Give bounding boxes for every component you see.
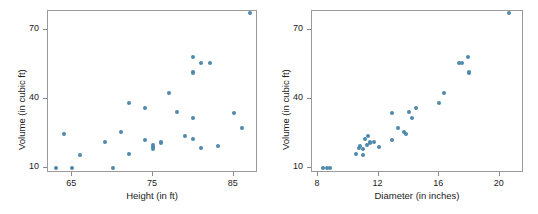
data-point (199, 61, 203, 65)
data-point (54, 166, 58, 170)
data-point (78, 153, 82, 157)
data-point (396, 126, 400, 130)
x-axis-title-right: Diameter (in inches) (311, 190, 523, 201)
data-point (361, 147, 365, 151)
data-point (363, 137, 367, 141)
scatterplot-figure: Volume (in cubic ft) 104070 657585 Heigh… (0, 0, 538, 214)
data-point (377, 145, 381, 149)
chart-panel-diameter: Volume (in cubic ft) 104070 8121620 Diam… (269, 0, 538, 214)
x-tick-label: 85 (220, 179, 246, 188)
data-point (407, 110, 411, 114)
y-tick-mark (43, 98, 47, 99)
data-point (143, 138, 147, 142)
y-tick-label: 40 (277, 93, 303, 102)
data-point (70, 166, 74, 170)
y-tick-mark (43, 29, 47, 30)
y-axis-title-right: Volume (in cubic ft) (280, 69, 291, 150)
data-point (460, 61, 464, 65)
y-tick-mark (307, 29, 311, 30)
data-point (216, 144, 220, 148)
data-point (232, 111, 236, 115)
data-point (183, 134, 187, 138)
data-point (127, 152, 131, 156)
x-tick-label: 75 (139, 179, 165, 188)
data-point (167, 91, 171, 95)
y-tick-label: 10 (13, 162, 39, 171)
data-point (404, 132, 408, 136)
data-point (354, 152, 358, 156)
data-point (191, 71, 195, 75)
x-tick-mark (378, 172, 379, 176)
y-tick-mark (307, 167, 311, 168)
x-axis-title-left: Height (in ft) (47, 190, 257, 201)
y-tick-mark (43, 167, 47, 168)
data-point (191, 55, 195, 59)
data-point (175, 110, 179, 114)
data-point (119, 130, 123, 134)
y-tick-label: 40 (13, 93, 39, 102)
plot-frame-left (47, 10, 257, 172)
x-tick-mark (317, 172, 318, 176)
data-point (208, 61, 212, 65)
chart-panel-height: Volume (in cubic ft) 104070 657585 Heigh… (0, 0, 269, 214)
data-point (366, 134, 370, 138)
data-point (191, 137, 195, 141)
data-point (103, 140, 107, 144)
data-points-right (312, 11, 522, 171)
data-point (361, 153, 365, 157)
data-point (248, 11, 252, 15)
data-points-left (48, 11, 256, 171)
y-axis-title-left: Volume (in cubic ft) (16, 69, 27, 150)
data-point (191, 116, 195, 120)
x-tick-label: 12 (365, 179, 391, 188)
data-point (199, 146, 203, 150)
data-point (437, 101, 441, 105)
plot-frame-right (311, 10, 523, 172)
y-tick-label: 70 (277, 24, 303, 33)
data-point (111, 166, 115, 170)
x-tick-label: 20 (486, 179, 512, 188)
data-point (390, 111, 394, 115)
data-point (414, 106, 418, 110)
data-point (372, 140, 376, 144)
data-point (321, 166, 325, 170)
x-tick-mark (152, 172, 153, 176)
data-point (240, 126, 244, 130)
x-tick-mark (71, 172, 72, 176)
data-point (467, 71, 471, 75)
data-point (127, 101, 131, 105)
data-point (507, 11, 511, 15)
x-tick-mark (233, 172, 234, 176)
x-tick-mark (499, 172, 500, 176)
y-tick-label: 70 (13, 24, 39, 33)
x-tick-mark (438, 172, 439, 176)
y-tick-label: 10 (277, 162, 303, 171)
x-tick-label: 65 (58, 179, 84, 188)
data-point (62, 132, 66, 136)
data-point (328, 166, 332, 170)
data-point (466, 55, 470, 59)
data-point (442, 91, 446, 95)
x-tick-label: 16 (425, 179, 451, 188)
data-point (390, 138, 394, 142)
data-point (410, 116, 414, 120)
y-tick-mark (307, 98, 311, 99)
x-tick-label: 8 (304, 179, 330, 188)
data-point (143, 106, 147, 110)
data-point (368, 140, 372, 144)
